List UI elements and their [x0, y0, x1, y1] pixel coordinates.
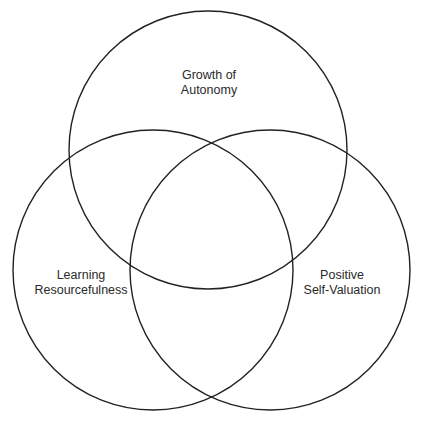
label-growth-of-autonomy: Growth of Autonomy [181, 68, 237, 98]
label-line-2: Self-Valuation [304, 283, 381, 298]
label-line-1: Growth of [181, 68, 237, 83]
venn-diagram [0, 0, 421, 428]
label-line-1: Learning [34, 268, 127, 283]
label-line-2: Resourcefulness [34, 283, 127, 298]
label-line-1: Positive [304, 268, 381, 283]
circle-growth-of-autonomy [69, 11, 347, 289]
label-learning-resourcefulness: Learning Resourcefulness [34, 268, 127, 298]
label-positive-self-valuation: Positive Self-Valuation [304, 268, 381, 298]
label-line-2: Autonomy [181, 83, 237, 98]
